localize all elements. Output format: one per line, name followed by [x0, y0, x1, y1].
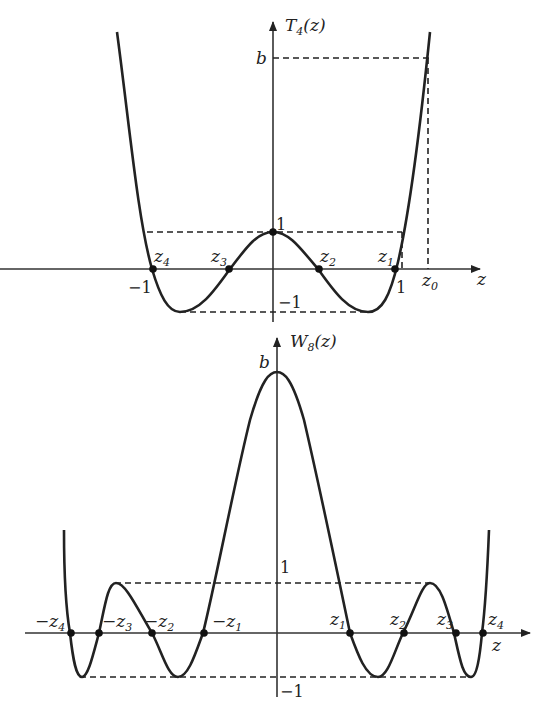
w8-root-z4: z4: [487, 609, 504, 632]
t4-plot: T4(z) b 1 −1 −1 1 z0 z z4 z3 z2 z1: [0, 15, 487, 322]
diagram-canvas: T4(z) b 1 −1 −1 1 z0 z z4 z3 z2 z1: [0, 0, 548, 717]
w8-one-label: 1: [280, 558, 290, 577]
w8-root-z2: z2: [389, 609, 406, 632]
t4-root-z2: z2: [319, 246, 336, 269]
t4-y-axis-label: T4(z): [285, 15, 326, 38]
w8-x-axis-label: z: [491, 635, 502, 655]
t4-b-label: b: [256, 48, 267, 68]
w8-root-neg-z3: −z3: [102, 611, 132, 634]
w8-root-neg-z2: −z2: [144, 611, 174, 634]
t4-x-one: 1: [396, 278, 406, 297]
t4-z0-label: z0: [421, 270, 438, 293]
w8-root-z3: z3: [436, 609, 453, 632]
w8-plot: W8(z) b 1 −1 z −z4 −z3 −z2 −z1 z1 z2 z3 …: [25, 331, 530, 701]
t4-root-z4: z4: [153, 246, 170, 269]
t4-guides: [147, 58, 429, 312]
w8-root-neg-z4: −z4: [35, 611, 65, 634]
t4-x-neg-one: −1: [128, 278, 152, 297]
t4-neg-one-label: −1: [278, 293, 302, 312]
w8-y-axis-label: W8(z): [290, 331, 337, 354]
w8-root-z1: z1: [329, 609, 346, 632]
w8-root-neg-z1: −z1: [212, 611, 242, 634]
t4-root-z3: z3: [210, 246, 227, 269]
t4-root-dots: [149, 228, 399, 273]
t4-root-z1: z1: [377, 246, 394, 269]
w8-b-label: b: [259, 352, 270, 372]
w8-neg-one-label: −1: [280, 682, 304, 701]
t4-x-axis-label: z: [476, 269, 487, 289]
w8-guides: [80, 583, 472, 677]
t4-one-label: 1: [276, 215, 286, 234]
